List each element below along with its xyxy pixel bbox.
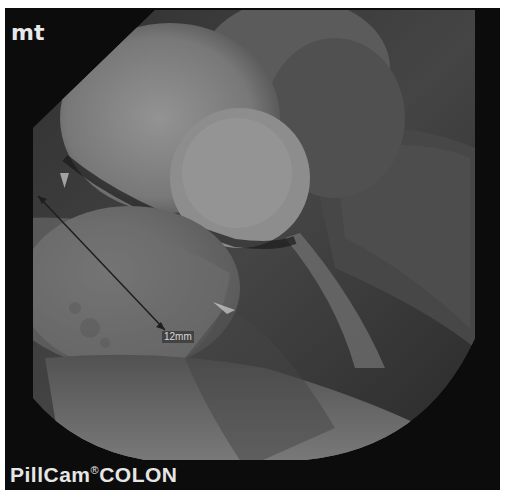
field-of-view <box>5 8 500 490</box>
endoscopy-frame: 12mm mt PillCam®COLON <box>5 8 500 490</box>
measurement-label: 12mm <box>162 331 194 343</box>
device-brand: PillCam <box>10 463 91 486</box>
device-model: COLON <box>99 463 177 486</box>
endoscopy-image <box>5 8 500 490</box>
device-label: PillCam®COLON <box>10 463 177 487</box>
overlay-label-top: mt <box>11 20 44 45</box>
registered-mark: ® <box>91 464 100 476</box>
